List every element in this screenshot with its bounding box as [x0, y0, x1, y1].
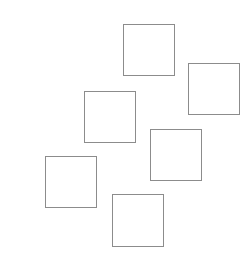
square-6 [112, 194, 164, 247]
square-4 [150, 129, 202, 181]
diagram-canvas [0, 0, 251, 257]
square-2 [188, 63, 240, 115]
square-3 [84, 91, 136, 143]
square-1 [123, 24, 175, 76]
square-5 [45, 156, 97, 208]
